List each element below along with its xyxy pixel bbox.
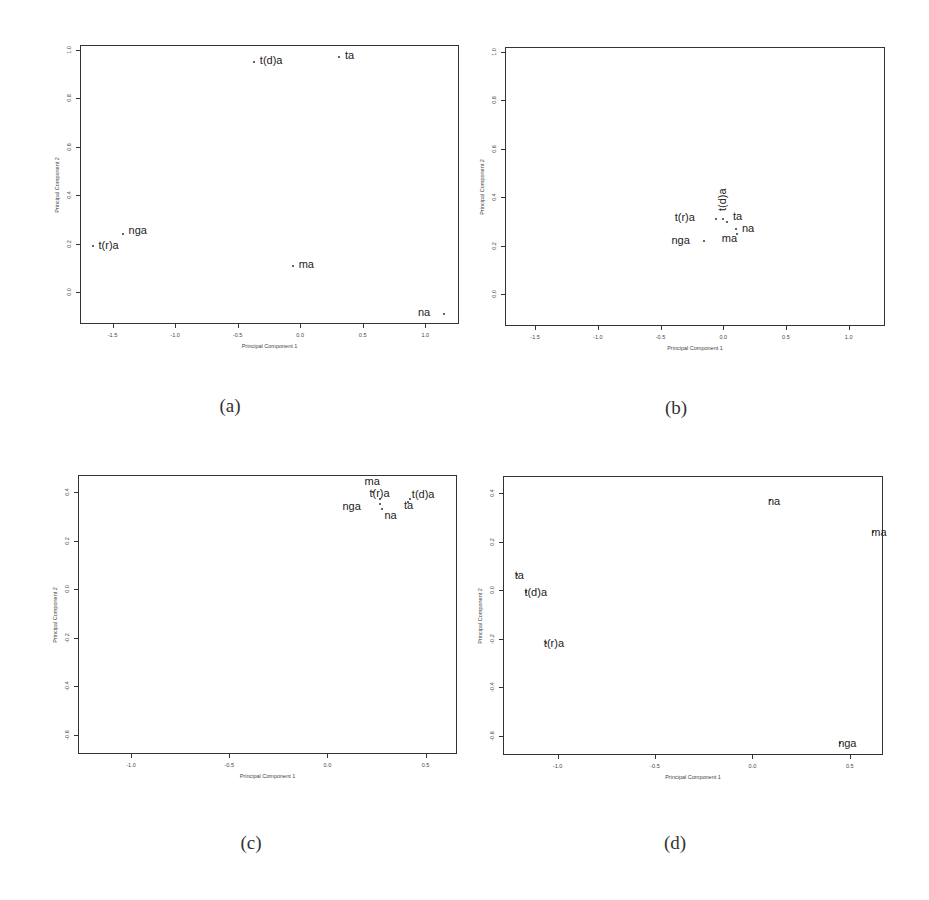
y-tick (501, 246, 505, 247)
panel-caption: (a) (219, 395, 240, 417)
point-label: t(r)a (369, 488, 389, 499)
y-tick (499, 639, 503, 640)
y-tick (74, 589, 78, 590)
x-tick-label: 0.0 (324, 762, 332, 768)
x-axis-label: Principal Component 1 (667, 345, 723, 351)
x-tick (425, 324, 426, 328)
point-label: ma (722, 233, 737, 244)
y-tick (74, 492, 78, 493)
plot-frame (78, 475, 457, 754)
y-tick (76, 292, 80, 293)
y-tick-label: 1.0 (66, 46, 72, 54)
y-tick-label: 0.4 (64, 488, 70, 496)
point-label: ma (871, 527, 886, 538)
data-point (292, 265, 294, 267)
x-tick-label: 0.5 (359, 332, 367, 338)
x-tick-label: 1.0 (845, 334, 853, 340)
x-axis-label: Principal Component 1 (242, 343, 298, 349)
x-tick (752, 755, 753, 759)
y-tick-label: 0.8 (66, 95, 72, 103)
x-tick-label: 0.5 (422, 762, 430, 768)
data-point (735, 228, 737, 230)
x-tick (661, 326, 662, 330)
point-label: ta (404, 500, 413, 511)
point-label: t(d)a (717, 189, 728, 212)
y-tick (74, 735, 78, 736)
point-label: na (384, 510, 396, 521)
point-label: nga (838, 738, 856, 749)
y-tick (501, 52, 505, 53)
plot-frame (505, 47, 885, 326)
panel-caption: (d) (664, 832, 686, 854)
x-tick (229, 754, 230, 758)
point-label: t(r)a (675, 212, 695, 223)
y-tick-label: 0.8 (491, 97, 497, 105)
x-tick (131, 754, 132, 758)
x-tick (327, 754, 328, 758)
point-label: ta (515, 570, 524, 581)
point-label: t(r)a (544, 638, 564, 649)
data-point (726, 221, 728, 223)
y-tick-label: 0.2 (64, 537, 70, 545)
y-tick-label: 0.6 (66, 143, 72, 151)
point-label: ma (299, 259, 314, 270)
x-tick-label: -0.5 (650, 763, 659, 769)
point-label: nga (342, 501, 360, 512)
x-tick (238, 324, 239, 328)
data-point (122, 233, 124, 235)
x-tick-label: -1.0 (170, 332, 179, 338)
y-tick (499, 542, 503, 543)
x-tick-label: -0.5 (224, 762, 233, 768)
y-tick (501, 197, 505, 198)
y-tick-label: -0.4 (489, 682, 495, 691)
y-tick (499, 736, 503, 737)
y-tick-label: 0.4 (66, 192, 72, 200)
x-tick-label: -0.5 (656, 334, 665, 340)
x-tick-label: 1.0 (421, 332, 429, 338)
y-tick-label: -0.2 (489, 634, 495, 643)
x-tick-label: -1.5 (108, 332, 117, 338)
y-tick (499, 687, 503, 688)
y-tick (501, 294, 505, 295)
x-tick-label: -1.0 (553, 763, 562, 769)
x-tick (850, 755, 851, 759)
y-tick-label: 0.6 (491, 145, 497, 153)
y-tick-label: 0.2 (491, 242, 497, 250)
x-tick-label: -1.0 (126, 762, 135, 768)
y-tick-label: 0.2 (66, 240, 72, 248)
x-tick-label: -0.5 (233, 332, 242, 338)
y-tick-label: -0.4 (64, 681, 70, 690)
point-label: na (768, 496, 780, 507)
x-tick-label: 0.5 (846, 763, 854, 769)
x-tick (113, 324, 114, 328)
y-axis-label: Principal Component 2 (477, 588, 483, 644)
y-tick (499, 590, 503, 591)
plot-frame (503, 476, 883, 755)
y-tick-label: 0.0 (491, 291, 497, 299)
y-tick-label: 0.4 (489, 489, 495, 497)
y-tick-label: 0.0 (489, 586, 495, 594)
y-tick (501, 100, 505, 101)
y-tick (76, 98, 80, 99)
x-tick (849, 326, 850, 330)
plot-frame (80, 45, 459, 324)
x-tick (535, 326, 536, 330)
point-label: na (742, 223, 754, 234)
y-axis-label: Principal Component 2 (479, 159, 485, 215)
point-label: ma (365, 476, 380, 487)
x-tick-label: -1.5 (530, 334, 539, 340)
y-tick (76, 147, 80, 148)
y-tick (499, 493, 503, 494)
data-point (253, 61, 255, 63)
point-label: t(d)a (260, 55, 283, 66)
y-tick-label: -0.6 (489, 731, 495, 740)
x-axis-label: Principal Component 1 (665, 774, 721, 780)
y-tick-label: -0.6 (64, 730, 70, 739)
point-label: nga (129, 225, 147, 236)
point-label: na (418, 307, 430, 318)
x-tick (558, 755, 559, 759)
y-tick-label: 0.0 (64, 585, 70, 593)
y-tick-label: 1.0 (491, 48, 497, 56)
y-tick (74, 638, 78, 639)
point-label: t(d)a (412, 489, 435, 500)
